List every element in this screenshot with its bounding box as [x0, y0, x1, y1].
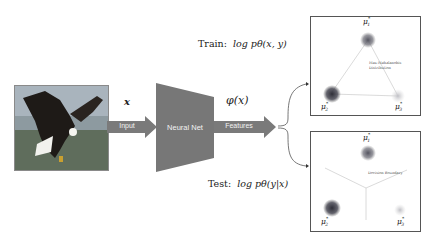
test-label: Test:	[208, 178, 231, 189]
cluster-1	[360, 145, 376, 161]
train-objective: log pθ(x, y)	[233, 38, 287, 49]
mmd-annotation: Max-Mahalanobis Distribution	[369, 61, 401, 70]
cluster-1	[360, 32, 376, 48]
input-arrow-label: Input	[108, 122, 146, 129]
branch-brace	[276, 80, 310, 170]
train-caption: Train: log pθ(x, y)	[198, 38, 287, 49]
test-objective: log pθ(y|x)	[237, 178, 288, 189]
test-mu-1: μ*1	[363, 132, 370, 143]
cluster-3	[394, 204, 406, 216]
test-panel: μ*1 μ*2 μ*3 Decision Boundary	[310, 131, 421, 232]
test-caption: Test: log pθ(y|x)	[208, 178, 288, 189]
features-arrow-label: Features	[214, 122, 264, 129]
train-mu-3: μ*3	[395, 101, 402, 112]
eagle-illustration	[15, 86, 108, 170]
train-mu-2: μ*2	[321, 101, 328, 112]
train-label: Train:	[198, 38, 227, 49]
decision-boundary-annotation: Decision Boundary	[368, 171, 402, 176]
cluster-2	[323, 199, 341, 217]
eagle-image	[14, 85, 109, 171]
train-panel: μ*1 μ*2 μ*3 Max-Mahalanobis Distribution	[310, 16, 421, 116]
train-mu-1: μ*1	[363, 16, 370, 27]
boundary-line-1	[325, 168, 366, 188]
input-variable: x	[124, 96, 130, 107]
features-variable: φ(x)	[226, 94, 249, 107]
test-mu-3: μ*3	[397, 216, 404, 227]
test-mu-2: μ*2	[321, 216, 328, 227]
neural-net-label: Neural Net	[156, 123, 214, 132]
